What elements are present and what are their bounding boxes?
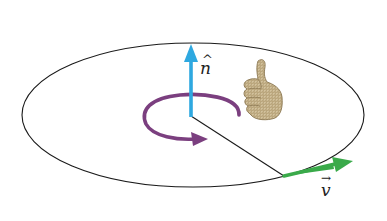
rotation-plane-ellipse bbox=[22, 43, 364, 187]
hat-symbol: ^ bbox=[202, 53, 213, 66]
velocity-vector-label: → v bbox=[321, 182, 331, 199]
thumbs-up-hand-icon bbox=[244, 60, 282, 120]
vector-arrow-symbol: → bbox=[321, 172, 331, 184]
right-hand-rule-diagram: ^ n → v bbox=[0, 0, 387, 221]
radius-line bbox=[191, 116, 284, 176]
velocity-vector-arrow bbox=[284, 157, 353, 176]
normal-vector-label: ^ n bbox=[200, 60, 211, 77]
normal-vector-arrow bbox=[184, 44, 198, 117]
